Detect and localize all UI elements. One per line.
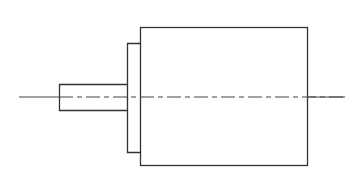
flange [128,44,141,153]
technical-drawing [0,0,361,169]
